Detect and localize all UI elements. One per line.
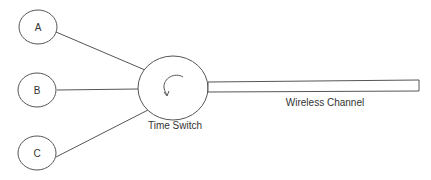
edge-b-switch xyxy=(57,89,138,90)
node-c-label: C xyxy=(33,148,40,159)
time-switch-node xyxy=(138,56,208,120)
node-a-label: A xyxy=(35,22,42,33)
edge-c-switch xyxy=(56,110,148,157)
time-switch-label: Time Switch xyxy=(148,120,202,131)
node-b-label: B xyxy=(34,85,41,96)
edge-a-switch xyxy=(56,32,145,70)
diagram-canvas xyxy=(0,0,431,180)
wireless-channel-bar xyxy=(208,80,419,92)
wireless-channel-label: Wireless Channel xyxy=(286,97,364,108)
